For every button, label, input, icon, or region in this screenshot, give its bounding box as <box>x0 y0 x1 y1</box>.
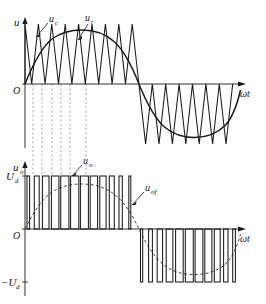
y-tick-positive-sub: d <box>15 177 19 185</box>
reference-label-sub: r <box>91 18 94 26</box>
carrier-label: u c <box>49 13 59 27</box>
pwm-pulse <box>51 176 59 229</box>
filtered-label-main: u <box>145 182 150 193</box>
filtered-label-leader <box>132 192 144 205</box>
pwm-pulse <box>149 229 153 282</box>
spwm-waveform-figure: u O ωt u c u r <box>0 0 266 304</box>
pwm-pulse <box>42 176 49 229</box>
pwm-pulse <box>157 229 162 282</box>
y-tick-negative-label: −U d <box>1 276 20 291</box>
filtered-label: u of <box>145 182 158 196</box>
waveform-svg: u O ωt u c u r <box>0 0 266 304</box>
pwm-pulse <box>176 229 184 282</box>
y-tick-positive-main: U <box>6 170 15 182</box>
output-label-main: u <box>83 155 88 166</box>
carrier-label-main: u <box>49 13 54 24</box>
upper-x-axis-arrow <box>238 81 246 86</box>
filtered-label-sub: of <box>151 188 158 196</box>
vertical-guide-lines <box>33 84 86 176</box>
pwm-pulse <box>166 229 173 282</box>
lower-y-axis-label-sub: o <box>20 168 24 176</box>
reference-label: u r <box>85 12 94 26</box>
lower-x-axis-label: ωt <box>240 233 250 244</box>
carrier-label-sub: c <box>55 19 59 27</box>
pwm-pulse <box>61 176 69 229</box>
lower-y-axis-label: u o <box>13 161 24 176</box>
pwm-pulse <box>214 229 220 282</box>
pwm-pulse <box>233 229 236 282</box>
lower-origin-label: O <box>13 230 20 241</box>
upper-x-axis-label: ωt <box>240 88 250 99</box>
pwm-positive-pulses <box>27 176 131 229</box>
pwm-pulse <box>109 176 114 229</box>
y-tick-negative-main: −U <box>1 276 17 288</box>
pwm-pulse <box>119 176 122 229</box>
pwm-pulse <box>141 229 143 282</box>
reference-label-main: u <box>85 12 90 23</box>
output-label-sub: o <box>89 161 93 169</box>
output-label: u o <box>83 155 93 169</box>
pwm-pulse <box>129 176 131 229</box>
pwm-pulse <box>27 176 30 229</box>
lower-x-axis-arrow <box>238 226 246 231</box>
pwm-pulse <box>205 229 212 282</box>
upper-y-axis-arrow <box>22 17 27 24</box>
upper-origin-label: O <box>13 85 20 96</box>
lower-chart: u o U d −U d O ωt u o <box>1 155 250 296</box>
pwm-pulse <box>90 176 97 229</box>
y-tick-negative-sub: d <box>16 283 20 291</box>
upper-chart: u O ωt u c u r <box>13 12 250 148</box>
pwm-pulse <box>224 229 228 282</box>
lower-y-axis-arrow <box>22 161 27 168</box>
pwm-pulse <box>34 176 39 229</box>
output-label-leader <box>72 165 82 176</box>
upper-y-axis-label: u <box>14 16 20 28</box>
pwm-pulse <box>100 176 106 229</box>
